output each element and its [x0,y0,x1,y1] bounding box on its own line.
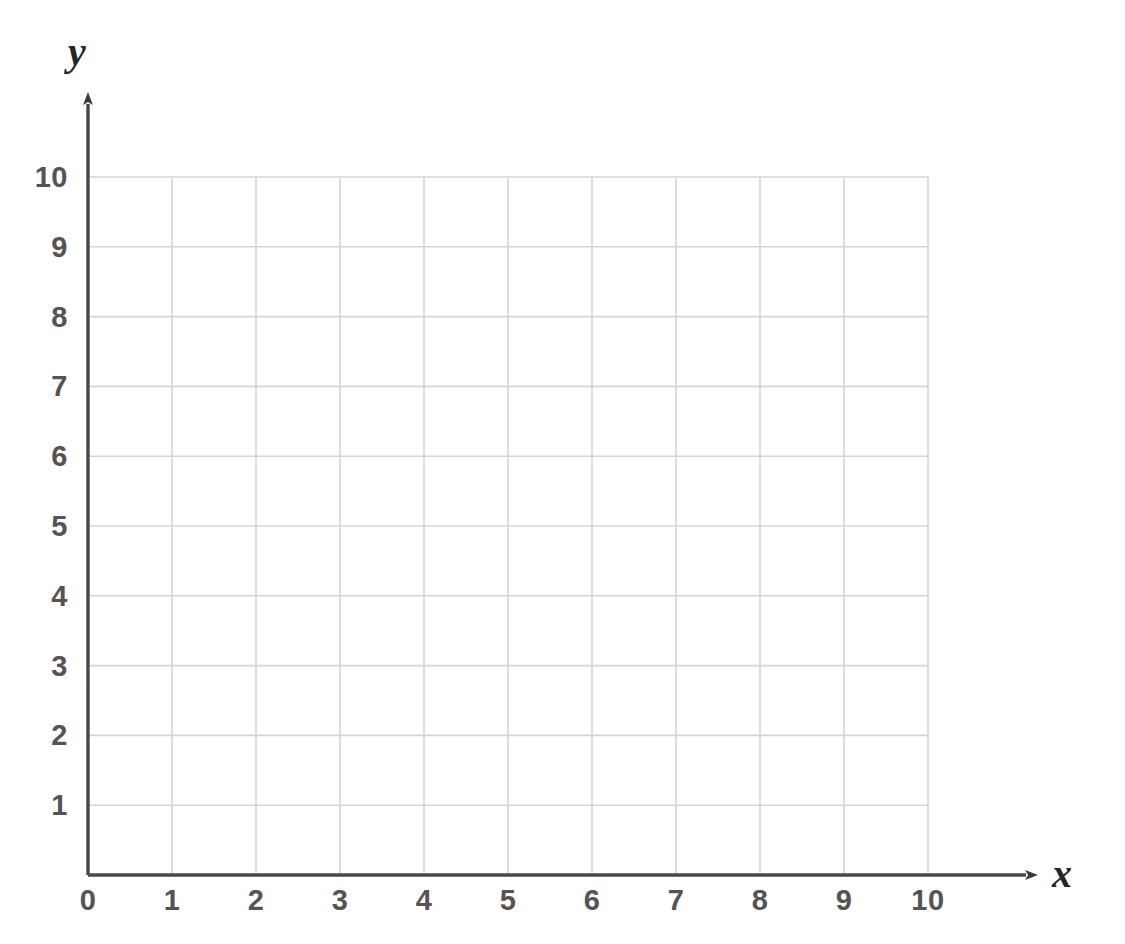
x-tick-label-2: 2 [248,886,265,915]
y-tick-label-2: 2 [0,721,68,750]
x-tick-label-0: 0 [80,886,97,915]
x-tick-label-3: 3 [332,886,349,915]
x-tick-label-1: 1 [164,886,181,915]
y-tick-label-7: 7 [0,372,68,401]
x-tick-label-8: 8 [752,886,769,915]
y-tick-label-9: 9 [0,232,68,261]
x-axis-name-label: x [1052,854,1072,894]
x-tick-label-5: 5 [500,886,517,915]
y-tick-label-6: 6 [0,442,68,471]
y-tick-label-4: 4 [0,581,68,610]
x-tick-label-7: 7 [668,886,685,915]
y-axis-name-label: y [68,32,86,72]
grid-canvas [0,0,1125,944]
x-tick-label-6: 6 [584,886,601,915]
y-tick-label-8: 8 [0,302,68,331]
x-tick-label-4: 4 [416,886,433,915]
y-tick-label-5: 5 [0,512,68,541]
x-tick-label-10: 10 [911,886,944,915]
y-tick-label-10: 10 [0,163,68,192]
y-tick-label-1: 1 [0,791,68,820]
y-tick-label-3: 3 [0,651,68,680]
coordinate-grid-figure: 012345678910 012345678910 x y [0,0,1125,944]
x-tick-label-9: 9 [836,886,853,915]
